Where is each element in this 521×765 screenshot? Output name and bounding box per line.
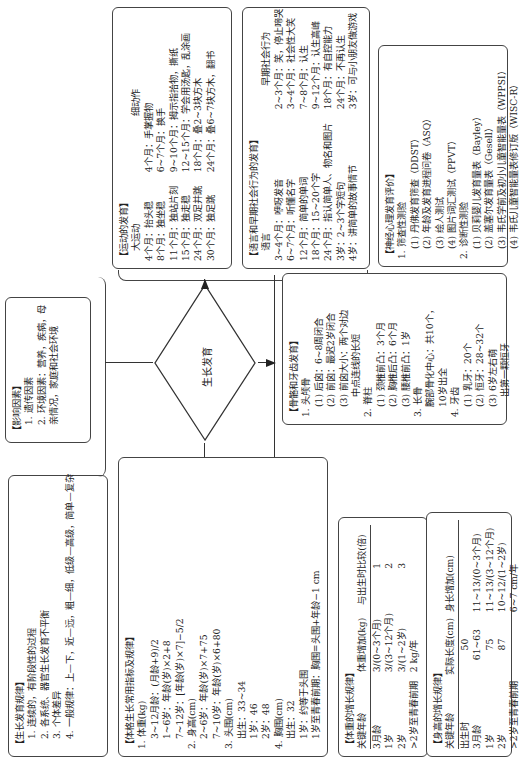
- bones-line: 出第一颗恒牙: [499, 281, 511, 417]
- table-cell: 6~7 cm/年: [508, 520, 520, 612]
- table-cell: 2: [383, 525, 395, 605]
- gross-motor-item: 11个月：独站片刻: [168, 186, 180, 261]
- indicators-title: 体格生长常用指标及规律: [124, 465, 136, 749]
- table-cell: 87: [496, 612, 508, 675]
- table-cell: [458, 520, 471, 612]
- indicator-line: 7~10岁：年龄(岁)×6+80: [211, 465, 223, 749]
- bones-line: (2) 胸椎后凸：6个月: [387, 281, 399, 417]
- neuro-line: (3) 韦氏学前及初小儿童智能量表（WPPSI）: [496, 53, 508, 259]
- influence-factors-title: 影响因素: [11, 305, 23, 435]
- weight-col-header: 关键年龄: [356, 672, 370, 749]
- table-cell: 1岁: [383, 672, 395, 749]
- bones-line: (3) 前囟大小：两个对边: [338, 281, 350, 417]
- bones-line: (1) 后囟：6~8周闭合: [313, 281, 325, 417]
- weight-col-header: 与出生时比较(倍): [356, 525, 370, 605]
- neuro-line: (4) 图片词汇测试（PPVT）: [446, 53, 458, 259]
- neuro-evaluation-box: 神经心理发育评价 1. 筛查性测验 (1) 丹佛发育筛查（DDST） (2) 年…: [378, 45, 508, 267]
- table-row: >2岁至青春前期 6~7 cm/年: [508, 520, 520, 749]
- neuro-line: (2) 盖塞尔发育量表（Gesell）: [483, 53, 495, 259]
- indicator-line: 3. 头围(cm): [223, 465, 235, 749]
- bones-title: 骨骼和牙齿发育: [288, 281, 300, 417]
- language-item: 6~7个月：听懂名字: [285, 123, 297, 261]
- height-col-header: 关键年龄: [444, 675, 458, 749]
- arrow-right-icon: [200, 279, 210, 289]
- table-cell: 11~13/(3~12个月): [484, 520, 496, 612]
- language-item: 18个月：15~20个字: [310, 123, 322, 261]
- language-title: 语言和早期社会行为的发育: [248, 15, 260, 261]
- center-label: 生长发育: [199, 347, 214, 387]
- table-cell: 50: [458, 612, 471, 675]
- weight-growth-table: 关键年龄 体重增加(kg) 与出生时比较(倍) 3月龄 3/(0~3个月) 1 …: [356, 525, 420, 749]
- left-brace: [95, 277, 106, 477]
- growth-law-line: 4. 一般规律：上—下，近—远，粗—细，低级—高级，简单—复杂: [64, 483, 76, 749]
- fine-motor-item: 12~15个月：学会用汤匙，乱涂画: [180, 33, 192, 172]
- indicator-line: 1岁：约等于头围: [298, 465, 310, 749]
- fine-motor-item: 9~10个月：拇示指拾物，撕纸: [168, 33, 180, 172]
- growth-indicators-box: 体格生长常用指标及规律 1. 体重(kg) 3~12月龄：(月龄+9)/2 1~…: [118, 457, 328, 757]
- indicator-line: 出生：33~34: [236, 465, 248, 749]
- social-heading: 早期社会行为: [260, 9, 272, 109]
- language-item: 4岁：讲简单的故事情节: [347, 123, 359, 261]
- indicator-line: 7~12岁：[年龄(岁)×7]−5/2: [174, 465, 186, 749]
- social-item: 7~8个月：认生: [298, 9, 310, 109]
- indicator-line: 2~6岁：年龄(岁)×7+75: [198, 465, 210, 749]
- table-row: 3月龄 3/(0~3个月) 1: [370, 525, 383, 749]
- neuro-line: (1) 贝莉婴儿发育量表（Bayley）: [471, 53, 483, 259]
- neuro-line: (1) 丹佛发育筛查（DDST）: [409, 53, 421, 259]
- motor-development-box: 运动的发育 大运动 4个月：抬头稳 8个月：独坐稳 11个月：独站片刻 15个月…: [112, 7, 232, 269]
- growth-laws-title: 生长发育规律: [14, 483, 26, 749]
- bones-line: 腕部骨化中心：共10个，: [424, 281, 436, 417]
- bones-line: (2) 前囟：最迟2岁闭合: [325, 281, 337, 417]
- fine-motor-heading: 细动作: [130, 33, 142, 172]
- neuro-title: 神经心理发育评价: [384, 53, 396, 259]
- table-cell: 3/(1~2岁): [396, 605, 408, 673]
- bones-line: 3. 长骨: [412, 281, 424, 417]
- table-row: 2岁 87 10~12/(1~2岁): [496, 520, 508, 749]
- neuro-line: 2. 诊断性测验: [458, 53, 470, 259]
- indicator-line: 1. 体重(kg): [136, 465, 148, 749]
- language-item: 3~4个月：咿呀发音: [273, 123, 285, 261]
- height-growth-table: 关键年龄 实际长度(cm) 身长增加(cm) 出生时 50 3月龄 61~63 …: [444, 520, 520, 749]
- weight-col-header: 体重增加(kg): [356, 605, 370, 673]
- language-item: 3岁：2~3个字短句: [335, 123, 347, 261]
- bones-line: 中点连线的长短: [350, 281, 362, 417]
- social-item: 18个月：有自控能力: [322, 9, 334, 109]
- bones-teeth-box: 骨骼和牙齿发育 1. 头颅骨 (1) 后囟：6~8周闭合 (2) 前囟：最迟2岁…: [282, 273, 507, 425]
- social-item: 24个月：不再认生: [335, 9, 347, 109]
- table-cell: 2岁: [496, 675, 508, 749]
- height-growth-table-box: 身高的增长规律 关键年龄 实际长度(cm) 身长增加(cm) 出生时 50 3月…: [426, 512, 512, 757]
- height-col-header: 实际长度(cm): [444, 612, 458, 675]
- language-social-box: 语言和早期社会行为的发育 语言 3~4个月：咿呀发音 6~7个月：听懂名字 12…: [242, 7, 370, 269]
- table-row: >2岁至青春前期 2 kg/年: [408, 525, 420, 749]
- language-item: 24个月：指认简单人、物名和图片: [322, 123, 334, 261]
- neuro-line: (3) 绘人测试: [434, 53, 446, 259]
- gross-motor-heading: 大运动: [130, 186, 142, 261]
- indicator-line: 4. 胸围(cm): [273, 465, 285, 749]
- indicator-line: 3~12月龄：(月龄+9)/2: [149, 465, 161, 749]
- neuro-line: 1. 筛查性测验: [396, 53, 408, 259]
- gross-motor-item: 24个月：双足并跳: [192, 186, 204, 261]
- indicator-line: 1岁至青春前期：胸围=头围+年龄−1 cm: [310, 465, 322, 749]
- gross-motor-item: 8个月：独坐稳: [155, 186, 167, 261]
- table-row: 1岁 75 11~13/(3~12个月): [484, 520, 496, 749]
- indicator-line: 出生：32: [285, 465, 297, 749]
- table-cell: [508, 612, 520, 675]
- factor-line: 2. 环境因素：营养，疾病，母亲情况，家庭和社会环境: [36, 305, 61, 435]
- table-row: 2岁 3/(1~2岁) 3: [396, 525, 408, 749]
- table-row: 3月龄 61~63 11~13/(0~3个月): [471, 520, 483, 749]
- table-cell: 1: [370, 525, 383, 605]
- factor-line: 1. 遗传因素: [23, 305, 35, 435]
- bones-line: (1) 颈椎前凸：3个月: [375, 281, 387, 417]
- table-cell: >2岁至青春前期: [408, 672, 420, 749]
- table-cell: 3/(0~3个月): [370, 605, 383, 673]
- social-item: 2~3个月：笑，停止啼哭: [273, 9, 285, 109]
- fine-motor-item: 18个月：叠2~3块方木: [192, 33, 204, 172]
- bones-line: (3) 腰椎前凸：1岁: [400, 281, 412, 417]
- fine-motor-item: 6~7个月：换手: [155, 33, 167, 172]
- table-cell: 1岁: [484, 675, 496, 749]
- connector-up: [105, 362, 153, 363]
- bones-line: (1) 乳牙：20个: [462, 281, 474, 417]
- social-item: 3岁：可与小朋友做游戏: [347, 9, 359, 109]
- gross-motor-item: 15个月：独走稳: [180, 186, 192, 261]
